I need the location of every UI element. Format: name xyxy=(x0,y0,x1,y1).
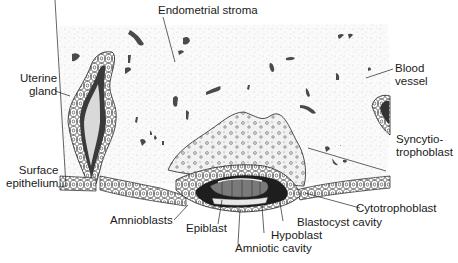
implantation-diagram xyxy=(0,0,458,263)
label-hypoblast: Hypoblast xyxy=(271,229,322,242)
label-blastocyst-cavity: Blastocyst cavity xyxy=(297,216,382,229)
label-endometrial-stroma: Endometrial stroma xyxy=(158,4,258,17)
label-amnioblasts: Amnioblasts xyxy=(110,214,173,227)
label-blood-vessel: Blood vessel xyxy=(395,62,428,88)
label-uterine-gland: Uterine gland xyxy=(20,72,57,98)
label-amniotic-cavity: Amniotic cavity xyxy=(235,242,312,255)
label-epiblast: Epiblast xyxy=(186,222,227,235)
label-syncytiotrophoblast: Syncytio- trophoblast xyxy=(396,133,453,159)
label-surface-epithelium: Surface epithelium xyxy=(6,164,58,190)
label-cytotrophoblast: Cytotrophoblast xyxy=(356,202,437,215)
